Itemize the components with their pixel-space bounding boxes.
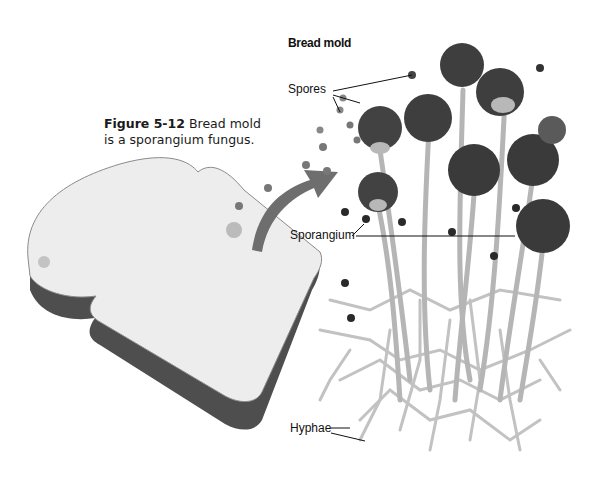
hyphae-label: Hyphae — [290, 421, 331, 435]
sporangium-label: Sporangium — [290, 228, 355, 242]
spores-label: Spores — [288, 82, 326, 96]
